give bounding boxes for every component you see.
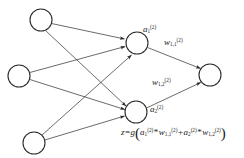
hidden-layer-nodes bbox=[125, 32, 148, 123]
edge-input1-hidden1 bbox=[52, 24, 125, 40]
node-output-1[interactable] bbox=[199, 64, 221, 86]
label-activation-a1: a1(2) bbox=[143, 25, 156, 34]
label-weight-w11: w1,1(2) bbox=[164, 38, 183, 47]
output-equation: z=g(a1(2)*w1,1(2)+a2(2)*w1,2(2)) bbox=[121, 127, 226, 137]
edge-input2-hidden2 bbox=[30, 80, 125, 110]
edge-input1-hidden2 bbox=[46, 31, 127, 107]
edge-input2-hidden1 bbox=[30, 47, 125, 73]
label-activation-a2: a2(2) bbox=[150, 105, 163, 114]
edge-input3-hidden2 bbox=[45, 116, 125, 140]
edge-hidden1-output1 bbox=[148, 48, 201, 69]
node-input-3[interactable] bbox=[23, 132, 45, 154]
output-layer-nodes bbox=[199, 64, 221, 86]
edge-input3-hidden1 bbox=[42, 55, 132, 136]
label-weight-w12: w1,2(2) bbox=[152, 78, 171, 87]
node-hidden-2[interactable] bbox=[125, 101, 147, 123]
node-input-1[interactable] bbox=[30, 9, 52, 31]
neural-network-figure: a1(2) a2(2) w1,1(2) w1,2(2) z=g(a1(2)*w1… bbox=[0, 0, 244, 158]
node-hidden-1[interactable] bbox=[126, 32, 148, 54]
edges-input-to-hidden bbox=[30, 24, 132, 141]
node-input-2[interactable] bbox=[8, 65, 30, 87]
